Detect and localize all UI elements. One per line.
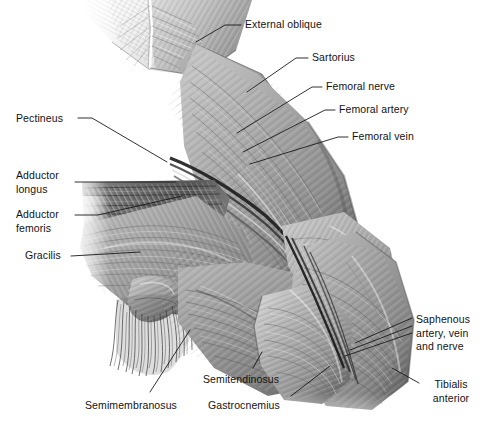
label-semitendinosus: Semitendinosus — [203, 373, 279, 387]
label-femoral-vein: Femoral vein — [352, 130, 414, 144]
label-tibialis-anterior: Tibialis anterior — [423, 378, 479, 405]
label-gastrocnemius: Gastrocnemius — [208, 399, 280, 413]
label-external-oblique: External oblique — [245, 18, 322, 32]
label-sartorius: Sartorius — [312, 51, 355, 65]
label-femoral-artery: Femoral artery — [339, 103, 409, 117]
label-femoral-nerve: Femoral nerve — [326, 80, 395, 94]
label-adductor-longus: Adductor longus — [16, 169, 76, 196]
label-semimembranosus: Semimembranosus — [85, 399, 177, 413]
label-gracilis: Gracilis — [25, 249, 61, 263]
anatomical-figure: External oblique Sartorius Femoral nerve… — [0, 0, 486, 423]
label-saphenous: Saphenous artery, vein and nerve — [416, 313, 486, 354]
label-adductor-femoris: Adductor femoris — [16, 208, 76, 235]
label-pectineus: Pectineus — [16, 112, 63, 126]
